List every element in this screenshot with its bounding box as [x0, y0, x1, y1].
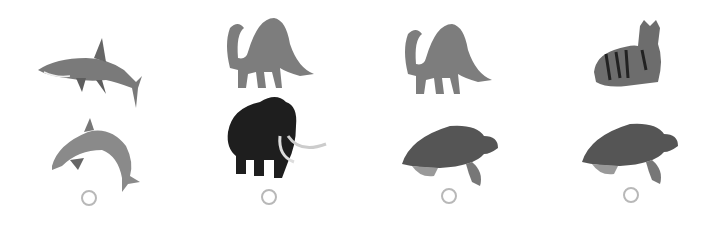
- option-b: [180, 0, 360, 229]
- option-a: [0, 0, 180, 229]
- option-c-radio[interactable]: [441, 188, 457, 204]
- brachiosaurus-image: [402, 20, 494, 96]
- woolly-mammoth-image: [224, 92, 328, 182]
- option-b-radio[interactable]: [261, 189, 277, 205]
- sea-turtle-image: [400, 122, 500, 188]
- option-d-radio[interactable]: [623, 187, 639, 203]
- option-c: [360, 0, 540, 229]
- brachiosaurus-image: [224, 14, 316, 90]
- dolphin-image: [48, 116, 142, 192]
- shark-image: [36, 36, 144, 110]
- option-a-radio[interactable]: [81, 190, 97, 206]
- option-d: [540, 0, 716, 229]
- sea-turtle-image: [580, 120, 680, 186]
- tiger-image: [592, 20, 664, 88]
